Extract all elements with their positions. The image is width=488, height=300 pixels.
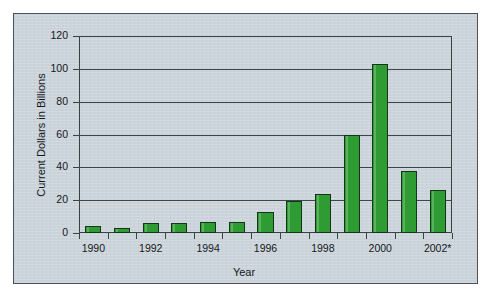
x-axis-title: Year [0, 266, 488, 278]
y-tick-mark [73, 167, 79, 168]
bar [286, 201, 302, 233]
bar-highlight [173, 224, 175, 232]
x-tick-mark [79, 233, 80, 239]
bar [315, 194, 331, 233]
bar-highlight [116, 229, 118, 232]
x-tick-label: 1996 [254, 242, 277, 254]
bar [372, 64, 388, 233]
x-tick-label: 1992 [139, 242, 162, 254]
bar-highlight [145, 224, 147, 232]
gridline [79, 135, 452, 136]
bar-highlight [346, 136, 348, 233]
bar [171, 223, 187, 233]
x-tick-label: 1998 [311, 242, 334, 254]
bar-highlight [317, 195, 319, 232]
x-tick-mark [136, 233, 137, 239]
y-tick-mark [73, 69, 79, 70]
y-tick-label: 0 [38, 226, 68, 238]
y-tick-label: 40 [38, 160, 68, 172]
x-tick-label: 1990 [82, 242, 105, 254]
gridline [79, 102, 452, 103]
bar-highlight [231, 223, 233, 232]
bar [114, 228, 130, 233]
gridline [79, 69, 452, 70]
bar [430, 190, 446, 233]
bar [200, 222, 216, 233]
x-tick-label: 1994 [196, 242, 219, 254]
y-tick-label: 80 [38, 95, 68, 107]
plot-area: 020406080100120 199019921994199619982000… [79, 36, 452, 233]
y-tick-label: 120 [38, 29, 68, 41]
y-tick-label: 20 [38, 193, 68, 205]
gridline [79, 167, 452, 168]
x-tick-label: 2000 [369, 242, 392, 254]
bar-highlight [259, 213, 261, 232]
bar [257, 212, 273, 233]
x-tick-mark [366, 233, 367, 239]
bar-highlight [403, 172, 405, 232]
bar [344, 135, 360, 234]
bar-highlight [374, 65, 376, 232]
y-tick-mark [73, 102, 79, 103]
x-tick-mark [194, 233, 195, 239]
x-tick-mark [395, 233, 396, 239]
bar [143, 223, 159, 233]
x-tick-mark [222, 233, 223, 239]
x-tick-label: 2002* [424, 242, 451, 254]
bar-highlight [288, 202, 290, 232]
bar-highlight [87, 227, 89, 232]
x-tick-mark [251, 233, 252, 239]
gridline [79, 200, 452, 201]
x-tick-mark [309, 233, 310, 239]
bar-highlight [432, 191, 434, 232]
y-tick-mark [73, 36, 79, 37]
bar-highlight [202, 223, 204, 232]
x-tick-mark [423, 233, 424, 239]
bar [229, 222, 245, 233]
x-tick-mark [280, 233, 281, 239]
y-tick-mark [73, 135, 79, 136]
bar [85, 226, 101, 233]
x-tick-mark [108, 233, 109, 239]
x-tick-mark [165, 233, 166, 239]
y-tick-label: 60 [38, 128, 68, 140]
y-tick-label: 100 [38, 62, 68, 74]
bar-chart-figure: Current Dollars in Billions 020406080100… [0, 0, 488, 300]
bar [401, 171, 417, 233]
y-tick-mark [73, 200, 79, 201]
x-tick-mark [337, 233, 338, 239]
x-tick-mark [452, 233, 453, 239]
